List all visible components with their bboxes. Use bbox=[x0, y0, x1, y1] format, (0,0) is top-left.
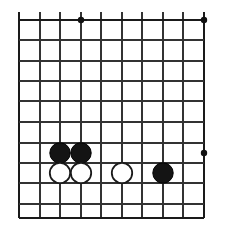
go-board-diagram bbox=[0, 0, 228, 233]
black-stone-3 bbox=[153, 163, 173, 183]
go-board-canvas bbox=[0, 0, 228, 233]
star-point-top-right bbox=[201, 17, 207, 23]
board-background bbox=[0, 0, 228, 233]
white-stone-2 bbox=[71, 163, 91, 183]
white-stone-3 bbox=[112, 163, 132, 183]
black-stone-2 bbox=[71, 143, 91, 163]
white-stone-1 bbox=[50, 163, 70, 183]
star-point-top-left bbox=[78, 17, 84, 23]
star-point-right bbox=[201, 150, 207, 156]
black-stone-1 bbox=[50, 143, 70, 163]
